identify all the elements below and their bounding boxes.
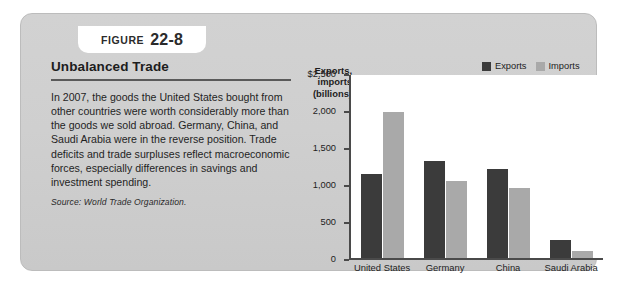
figure-label: FIGURE — [101, 34, 144, 46]
figure-headline: Unbalanced Trade — [51, 59, 299, 74]
y-tick-2500: $2,500 — [344, 74, 349, 75]
bar-imports — [446, 181, 467, 259]
legend-label-imports: Imports — [549, 61, 580, 71]
bar-imports — [383, 112, 404, 259]
headline-divider — [51, 79, 291, 81]
y-tick-label-1000: 1,000 — [313, 180, 336, 190]
bar-group — [414, 75, 477, 258]
bar-exports — [424, 161, 445, 259]
figure-number: 22-8 — [150, 31, 183, 49]
x-axis-label: United States — [351, 262, 414, 273]
figure-source: Source: World Trade Organization. — [51, 197, 299, 207]
figure-page: FIGURE 22-8 Unbalanced Trade In 2007, th… — [0, 0, 625, 292]
bar-group — [351, 75, 414, 258]
x-axis-labels: United StatesGermanyChinaSaudi Arabia — [351, 262, 603, 273]
bar-exports — [550, 240, 571, 258]
y-tick-1500: 1,500 — [344, 148, 349, 149]
text-column: Unbalanced Trade In 2007, the goods the … — [51, 59, 299, 207]
y-tick-1000: 1,000 — [344, 185, 349, 186]
y-tick-label-0: 0 — [331, 254, 336, 264]
y-tick-label-2000: 2,000 — [313, 106, 336, 116]
plot-area: 05001,0001,5002,000$2,500 — [349, 75, 603, 260]
y-tick-500: 500 — [344, 222, 349, 223]
legend-item-exports: Exports — [482, 61, 527, 71]
figure-tab: FIGURE 22-8 — [78, 27, 206, 53]
x-axis-label: Saudi Arabia — [540, 262, 603, 273]
bar-imports — [509, 188, 530, 258]
body-paragraph: In 2007, the goods the United States bou… — [51, 90, 297, 190]
chart: Exports,imports(billions) Exports Import… — [304, 61, 609, 273]
y-tick-label-2500: $2,500 — [308, 69, 336, 79]
figure-panel: FIGURE 22-8 Unbalanced Trade In 2007, th… — [20, 13, 597, 271]
bar-groups — [351, 75, 603, 258]
figure-body-text: In 2007, the goods the United States bou… — [51, 90, 297, 190]
chart-legend: Exports Imports — [482, 61, 580, 71]
y-tick-2000: 2,000 — [344, 111, 349, 112]
y-axis-title-line-2: (billions) — [304, 88, 352, 99]
bar-exports — [361, 174, 382, 258]
x-axis-label: China — [477, 262, 540, 273]
x-axis-line — [349, 258, 603, 260]
legend-label-exports: Exports — [495, 61, 527, 71]
legend-swatch-exports-icon — [482, 62, 491, 71]
bar-exports — [487, 169, 508, 259]
x-axis-label: Germany — [414, 262, 477, 273]
y-tick-0: 0 — [344, 259, 349, 260]
y-tick-label-1500: 1,500 — [313, 143, 336, 153]
y-tick-label-500: 500 — [320, 217, 336, 227]
bar-group — [477, 75, 540, 258]
legend-swatch-imports-icon — [536, 62, 545, 71]
bar-group — [540, 75, 603, 258]
bar-imports — [572, 251, 593, 258]
legend-item-imports: Imports — [536, 61, 580, 71]
